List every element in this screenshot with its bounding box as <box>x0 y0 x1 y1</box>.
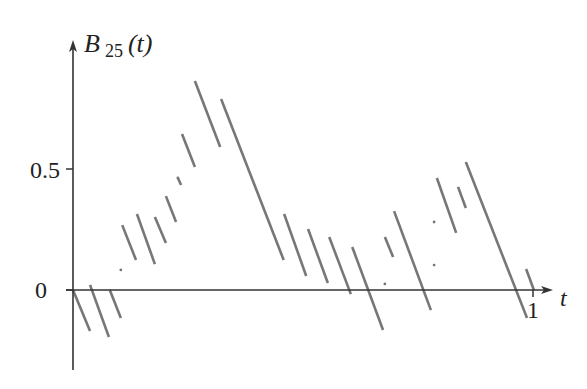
y-axis-label-sub: 25 <box>105 41 123 61</box>
data-segment <box>329 237 351 294</box>
data-segment <box>352 247 383 330</box>
y-axis-label-main: B <box>84 29 100 58</box>
data-dot <box>119 269 122 272</box>
x-axis-label: t <box>560 285 568 311</box>
data-segment <box>182 134 195 167</box>
data-segment <box>308 229 328 283</box>
data-segment <box>466 162 527 318</box>
data-dots <box>119 177 435 286</box>
data-segment <box>90 285 109 337</box>
data-segment <box>385 237 393 257</box>
data-series <box>73 81 534 337</box>
data-segment <box>437 178 456 233</box>
y-axis-label-arg: (t) <box>128 29 153 58</box>
y-axis-label: B25(t) <box>84 29 152 61</box>
data-dot <box>433 264 436 267</box>
data-segment <box>458 187 466 208</box>
data-segment <box>284 214 306 276</box>
data-segment <box>110 290 121 318</box>
data-segment <box>221 99 284 260</box>
data-segment <box>166 196 176 222</box>
data-dot <box>176 177 179 180</box>
data-dot <box>433 221 436 224</box>
data-segment <box>394 211 431 310</box>
data-segment <box>73 290 90 331</box>
data-segment <box>137 214 155 264</box>
data-segment <box>526 269 534 290</box>
ytick-label-0: 0 <box>35 277 47 303</box>
data-segment <box>195 81 220 147</box>
xtick-label-1: 1 <box>527 297 539 323</box>
data-dot <box>383 283 386 286</box>
ytick-label-0.5: 0.5 <box>30 157 60 183</box>
data-segment <box>122 225 136 260</box>
chart: 0.5 0 1 t B25(t) <box>0 0 587 389</box>
data-segment <box>155 217 166 243</box>
